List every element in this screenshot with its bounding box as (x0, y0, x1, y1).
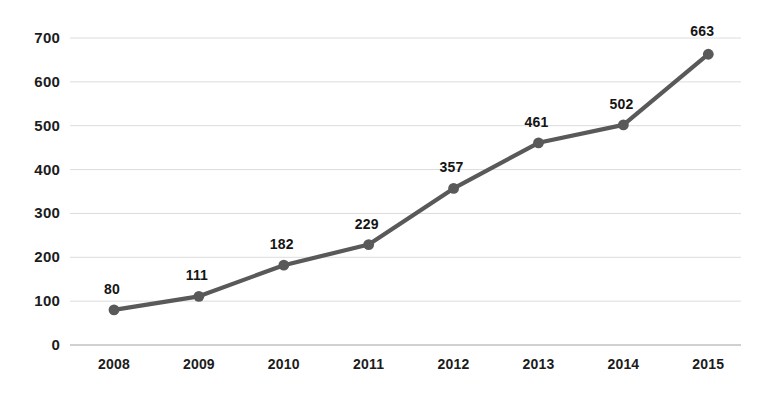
data-point-marker (533, 137, 544, 148)
data-point-marker (109, 305, 120, 316)
data-point-label: 502 (591, 96, 651, 112)
x-axis-tick-label: 2015 (673, 356, 743, 372)
x-axis-tick-label: 2011 (334, 356, 404, 372)
data-point-label: 182 (252, 236, 312, 252)
data-point-marker (194, 291, 205, 302)
data-point-label: 461 (507, 114, 567, 130)
x-axis-tick-label: 2012 (419, 356, 489, 372)
y-axis-tick-label: 300 (0, 204, 60, 221)
data-point-label: 357 (422, 159, 482, 175)
data-point-marker (618, 119, 629, 130)
data-point-label: 229 (337, 216, 397, 232)
x-axis-tick-label: 2008 (79, 356, 149, 372)
y-axis-tick-label: 700 (0, 29, 60, 46)
y-axis-tick-label: 0 (0, 336, 60, 353)
y-axis-tick-label: 200 (0, 248, 60, 265)
data-point-marker (363, 239, 374, 250)
x-axis-tick-label: 2014 (588, 356, 658, 372)
data-point-label: 111 (167, 267, 227, 283)
y-axis-tick-label: 400 (0, 161, 60, 178)
data-point-marker (448, 183, 459, 194)
data-point-marker (703, 49, 714, 60)
chart-plot-area (0, 0, 776, 396)
x-axis-tick-label: 2010 (249, 356, 319, 372)
line-chart: 0100200300400500600700 20082009201020112… (0, 0, 776, 396)
data-point-label: 80 (82, 281, 142, 297)
x-axis-tick-label: 2009 (164, 356, 234, 372)
x-axis-tick-label: 2013 (504, 356, 574, 372)
data-point-label: 663 (672, 23, 732, 39)
data-point-marker (278, 260, 289, 271)
y-axis-tick-label: 600 (0, 73, 60, 90)
y-axis-tick-label: 500 (0, 117, 60, 134)
y-axis-tick-label: 100 (0, 292, 60, 309)
